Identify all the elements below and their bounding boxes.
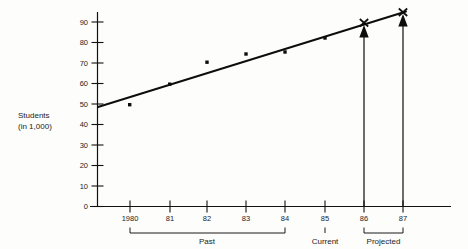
bracket-projected: Projected (364, 228, 403, 246)
y-tick-label-10: 10 (80, 182, 88, 191)
y-tick-label-30: 30 (80, 141, 88, 150)
data-point-83 (244, 52, 247, 55)
y-tick-label-50: 50 (80, 100, 88, 109)
y-axis-title-line-1: Students (18, 111, 50, 120)
y-axis-ticks: 0 10 20 30 40 50 60 70 80 90 (80, 18, 104, 212)
chart-figure: 0 10 20 30 40 50 60 70 80 90 Students (i… (0, 0, 468, 249)
arrow-head-86 (359, 25, 368, 38)
y-tick-label-20: 20 (80, 161, 88, 170)
y-tick-label-70: 70 (80, 59, 88, 68)
scatter-plot-canvas: 0 10 20 30 40 50 60 70 80 90 Students (i… (0, 0, 468, 249)
y-axis-title-line-2: (in 1,000) (18, 122, 52, 131)
axes-group (90, 12, 451, 207)
x-tick-label-85: 85 (321, 214, 329, 223)
bracket-projected-line (364, 228, 403, 234)
bracket-past-line (130, 228, 285, 234)
x-tick-label-83: 83 (242, 214, 250, 223)
x-tick-label-81: 81 (166, 214, 174, 223)
bracket-projected-label: Projected (367, 237, 401, 246)
projection-arrow-86 (359, 25, 368, 206)
x-tick-label-84: 84 (281, 214, 289, 223)
y-tick-label-90: 90 (80, 18, 88, 27)
data-point-84 (283, 50, 286, 53)
data-point-85 (323, 36, 326, 39)
bracket-past-label: Past (199, 237, 216, 246)
data-point-1980 (128, 103, 131, 106)
y-axis-title: Students (in 1,000) (18, 111, 52, 131)
projection-arrow-87 (398, 14, 407, 206)
y-tick-label-60: 60 (80, 79, 88, 88)
bracket-current: Current (312, 228, 339, 246)
data-point-81 (168, 83, 171, 86)
y-tick-label-40: 40 (80, 120, 88, 129)
projection-arrows (359, 14, 407, 206)
observed-data-points (128, 36, 327, 106)
bracket-past: Past (130, 228, 285, 246)
x-tick-label-82: 82 (203, 214, 211, 223)
data-point-82 (205, 61, 208, 64)
category-brackets: Past Current Projected (130, 228, 403, 246)
x-tick-label-87: 87 (399, 214, 407, 223)
y-tick-label-80: 80 (80, 38, 88, 47)
x-tick-label-86: 86 (360, 214, 368, 223)
bracket-current-label: Current (312, 237, 339, 246)
x-tick-label-1980: 1980 (122, 214, 139, 223)
y-tick-label-0: 0 (84, 202, 88, 211)
